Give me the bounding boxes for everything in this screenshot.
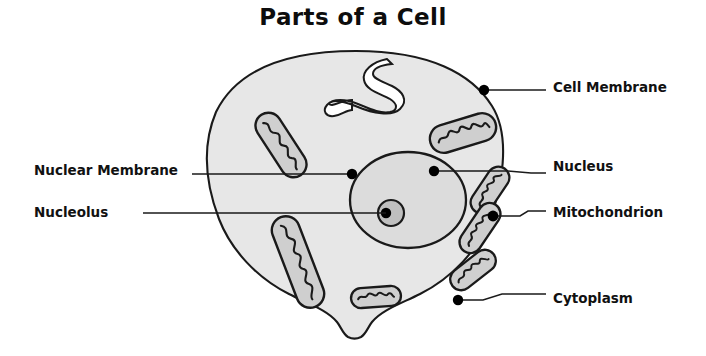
anchor-dot-nuclear-membrane — [347, 169, 357, 179]
label-nuclear-membrane: Nuclear Membrane — [34, 164, 178, 178]
leader-line-cytoplasm — [458, 294, 546, 300]
label-mitochondrion: Mitochondrion — [553, 206, 663, 220]
anchor-dot-cytoplasm — [453, 295, 463, 305]
cell-diagram-page: Parts of a Cell — [0, 0, 706, 356]
label-nucleus: Nucleus — [553, 160, 613, 174]
anchor-dot-cell-membrane — [479, 85, 489, 95]
nuclear-membrane — [350, 152, 466, 248]
label-cell-membrane: Cell Membrane — [553, 81, 667, 95]
anchor-dot-nucleus — [429, 166, 439, 176]
label-nucleolus: Nucleolus — [34, 206, 108, 220]
mitochondrion — [350, 285, 401, 308]
nucleus — [350, 152, 466, 248]
label-cytoplasm: Cytoplasm — [553, 292, 633, 306]
anchor-dot-mitochondrion — [488, 211, 499, 222]
